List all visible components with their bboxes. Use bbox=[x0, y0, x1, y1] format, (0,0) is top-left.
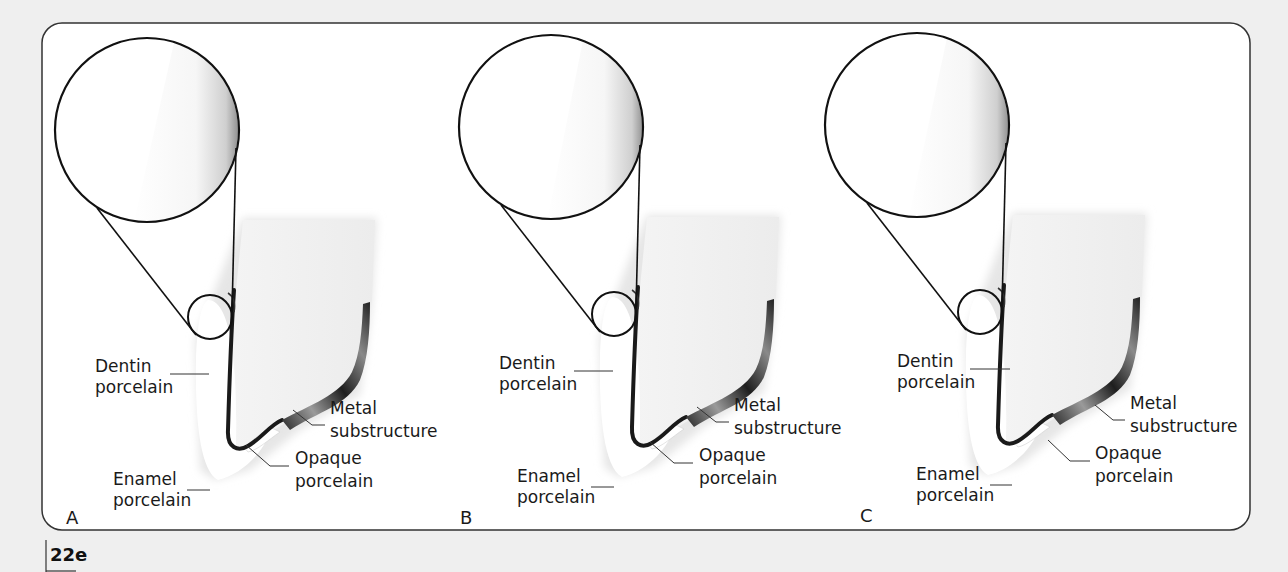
svg-text:porcelain: porcelain bbox=[897, 372, 975, 392]
svg-text:substructure: substructure bbox=[1130, 416, 1238, 436]
panel-letter-b: B bbox=[460, 507, 472, 528]
svg-text:porcelain: porcelain bbox=[113, 490, 191, 510]
panel-letter-a: A bbox=[66, 507, 79, 528]
svg-text:Enamel: Enamel bbox=[113, 469, 177, 489]
svg-text:Enamel: Enamel bbox=[916, 464, 980, 484]
svg-text:porcelain: porcelain bbox=[699, 468, 777, 488]
svg-text:substructure: substructure bbox=[734, 418, 842, 438]
svg-text:Dentin: Dentin bbox=[499, 353, 556, 373]
svg-text:Opaque: Opaque bbox=[295, 448, 362, 468]
svg-text:Dentin: Dentin bbox=[897, 351, 954, 371]
svg-text:Enamel: Enamel bbox=[517, 466, 581, 486]
svg-text:Metal: Metal bbox=[330, 398, 377, 418]
svg-text:Metal: Metal bbox=[1130, 393, 1177, 413]
figure-id: 22e bbox=[46, 540, 87, 572]
svg-text:Metal: Metal bbox=[734, 395, 781, 415]
svg-text:Opaque: Opaque bbox=[1095, 443, 1162, 463]
svg-text:22e: 22e bbox=[50, 544, 87, 565]
svg-text:porcelain: porcelain bbox=[517, 487, 595, 507]
panel-letter-c: C bbox=[860, 505, 873, 526]
svg-text:porcelain: porcelain bbox=[1095, 466, 1173, 486]
dental-figure: Dentin porcelain Enamel porcelain Metal … bbox=[0, 0, 1288, 572]
svg-text:Dentin: Dentin bbox=[95, 356, 152, 376]
svg-text:porcelain: porcelain bbox=[295, 471, 373, 491]
svg-text:porcelain: porcelain bbox=[95, 377, 173, 397]
svg-text:porcelain: porcelain bbox=[916, 485, 994, 505]
svg-text:Opaque: Opaque bbox=[699, 445, 766, 465]
svg-text:substructure: substructure bbox=[330, 421, 438, 441]
svg-text:porcelain: porcelain bbox=[499, 374, 577, 394]
